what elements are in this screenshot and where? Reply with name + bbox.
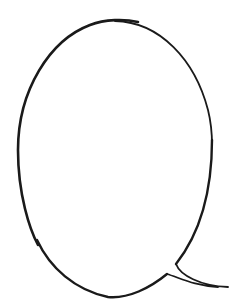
speech-bubble-body bbox=[18, 21, 228, 295]
speech-bubble-icon bbox=[0, 0, 242, 303]
speech-bubble-canvas bbox=[0, 0, 242, 303]
